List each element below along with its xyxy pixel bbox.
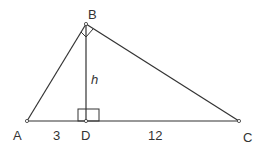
vertex-c-point — [237, 119, 240, 122]
right-angle-marker-d — [78, 109, 99, 121]
vertex-b-point — [84, 22, 87, 25]
vertex-label-c: C — [243, 130, 252, 145]
side-ab — [27, 24, 86, 121]
vertex-label-a: A — [13, 128, 22, 143]
vertex-label-b: B — [88, 7, 97, 22]
segment-label-dc: 12 — [148, 128, 162, 143]
triangle-diagram: B A D C 3 12 h — [0, 0, 275, 149]
vertex-label-d: D — [81, 128, 90, 143]
vertex-d-point — [84, 119, 87, 122]
segment-label-bd: h — [91, 72, 98, 87]
side-bc — [86, 24, 239, 121]
vertex-a-point — [25, 119, 28, 122]
segment-label-ad: 3 — [53, 128, 60, 143]
